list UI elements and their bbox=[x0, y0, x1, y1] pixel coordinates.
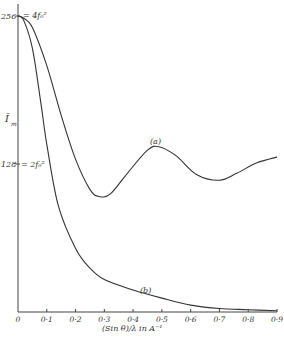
x-axis-label: (Sin θ)/λ in A⁻¹ bbox=[102, 324, 163, 333]
x-tick-label: 0·9 bbox=[271, 315, 283, 324]
curves bbox=[18, 16, 277, 311]
y-axis-label-sub: m bbox=[11, 120, 17, 127]
x-tick-label: 0·8 bbox=[242, 315, 254, 324]
y-tick-128: 128 bbox=[1, 160, 16, 169]
x-tick-label: 0·7 bbox=[213, 315, 225, 324]
y-tick-128-annotation: = 2f₀² bbox=[21, 160, 45, 169]
x-tick-label: 0·3 bbox=[98, 315, 110, 324]
x-tick-label: 0·5 bbox=[156, 315, 168, 324]
x-tick-label: 0 bbox=[16, 315, 21, 324]
y-axis-label: Ī bbox=[4, 113, 10, 124]
x-tick-label: 0·2 bbox=[70, 315, 82, 324]
chart: 00·10·20·30·40·50·60·70·80·9 256 = 4f₀² … bbox=[0, 0, 284, 337]
x-tick-label: 0·1 bbox=[41, 315, 53, 324]
y-tick-256-annotation: = 4f₀² bbox=[23, 11, 47, 20]
curve-a bbox=[18, 16, 277, 197]
curve-b bbox=[18, 16, 277, 311]
x-tick-label: 0·4 bbox=[127, 315, 139, 324]
curve-b-label: (b) bbox=[140, 286, 151, 295]
x-ticks: 00·10·20·30·40·50·60·70·80·9 bbox=[16, 309, 284, 324]
curve-a-label: (a) bbox=[150, 137, 161, 146]
x-tick-label: 0·6 bbox=[185, 315, 197, 324]
y-tick-256: 256 bbox=[0, 12, 16, 21]
axes bbox=[16, 4, 277, 312]
